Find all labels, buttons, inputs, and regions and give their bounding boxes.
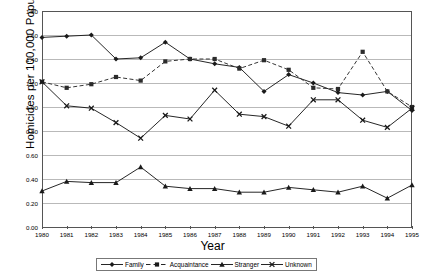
data-point-marker [385, 89, 389, 93]
data-point-marker [39, 188, 44, 193]
legend-label: Stranger [234, 261, 261, 268]
x-tick-label: 1987 [208, 231, 222, 238]
data-point-marker [409, 182, 414, 187]
x-tick-label: 1992 [331, 231, 345, 238]
data-point-marker [212, 61, 217, 66]
x-tick-mark [215, 226, 216, 229]
data-point-marker [138, 164, 143, 169]
data-point-marker [188, 57, 192, 61]
x-axis-title: Year [0, 239, 425, 253]
x-tick-label: 1985 [158, 231, 172, 238]
legend-symbol-triangle [211, 260, 233, 269]
x-tick-mark [289, 226, 290, 229]
data-point-marker [287, 68, 291, 72]
y-tick-label: 0.60 [12, 152, 38, 159]
data-point-marker [360, 93, 365, 98]
x-tick-label: 1986 [183, 231, 197, 238]
series-stranger [39, 164, 414, 200]
y-tick-label: 1.40 [12, 56, 38, 63]
data-point-marker [311, 81, 316, 86]
data-point-marker [385, 196, 390, 201]
data-point-marker [89, 82, 93, 86]
x-tick-mark [338, 226, 339, 229]
legend-item-family[interactable]: Family [100, 260, 145, 269]
x-tick-mark [141, 226, 142, 229]
x-tick-label: 1982 [84, 231, 98, 238]
y-tick-label: 0.40 [12, 176, 38, 183]
x-tick-mark [313, 226, 314, 229]
data-point-marker [311, 86, 315, 90]
series-lines [42, 11, 412, 227]
data-point-marker [213, 57, 217, 61]
data-point-marker [138, 136, 143, 141]
x-tick-label: 1989 [257, 231, 271, 238]
x-tick-label: 1984 [134, 231, 148, 238]
plot-area [42, 11, 412, 227]
data-point-marker [139, 79, 143, 83]
y-tick-label: 0.20 [12, 200, 38, 207]
data-point-marker [360, 184, 365, 189]
data-point-marker [212, 88, 217, 93]
data-point-marker [237, 67, 241, 71]
x-tick-mark [387, 226, 388, 229]
x-tick-label: 1993 [356, 231, 370, 238]
chart-legend: FamilyAcquaintanceStrangerUnknown [96, 258, 317, 271]
y-tick-label: 1.20 [12, 80, 38, 87]
legend-symbol-x [261, 260, 283, 269]
x-tick-label: 1991 [306, 231, 320, 238]
x-tick-label: 1981 [60, 231, 74, 238]
legend-item-acquaintance[interactable]: Acquaintance [145, 260, 210, 269]
data-point-marker [336, 87, 340, 91]
data-point-marker [64, 34, 69, 39]
data-point-marker [361, 50, 365, 54]
series-line [42, 167, 412, 198]
legend-item-stranger[interactable]: Stranger [210, 260, 261, 269]
data-point-marker [114, 120, 119, 125]
x-tick-mark [363, 226, 364, 229]
series-unknown [40, 79, 415, 140]
data-point-marker [262, 58, 266, 62]
x-tick-mark [67, 226, 68, 229]
x-tick-mark [412, 226, 413, 229]
series-family [40, 33, 415, 114]
x-tick-mark [165, 226, 166, 229]
x-tick-mark [91, 226, 92, 229]
y-axis-tick-labels: 0.000.200.400.600.801.001.201.401.601.80 [8, 11, 38, 227]
legend-item-unknown[interactable]: Unknown [260, 260, 313, 269]
x-tick-label: 1995 [405, 231, 419, 238]
y-tick-label: 1.60 [12, 32, 38, 39]
data-point-marker [286, 124, 291, 129]
legend-label: Acquaintance [169, 261, 210, 268]
x-tick-label: 1994 [380, 231, 394, 238]
x-tick-mark [42, 226, 43, 229]
series-line [42, 35, 412, 111]
x-tick-mark [264, 226, 265, 229]
data-point-marker [65, 86, 69, 90]
x-tick-label: 1980 [35, 231, 49, 238]
x-tick-mark [239, 226, 240, 229]
series-line [42, 52, 412, 107]
legend-label: Family [124, 261, 145, 268]
y-tick-label: 1.80 [12, 8, 38, 15]
y-tick-label: 1.00 [12, 104, 38, 111]
x-tick-label: 1983 [109, 231, 123, 238]
x-tick-mark [116, 226, 117, 229]
data-point-marker [138, 55, 143, 60]
data-point-marker [155, 262, 159, 266]
x-tick-mark [190, 226, 191, 229]
data-point-marker [114, 75, 118, 79]
series-line [42, 82, 412, 138]
legend-label: Unknown [284, 261, 313, 268]
x-tick-label: 1990 [282, 231, 296, 238]
legend-symbol-diamond [101, 260, 123, 269]
series-acquaintance [40, 50, 414, 109]
x-tick-label: 1988 [232, 231, 246, 238]
data-point-marker [40, 35, 45, 40]
data-point-marker [163, 59, 167, 63]
y-tick-label: 0.00 [12, 224, 38, 231]
data-point-marker [110, 262, 115, 267]
legend-symbol-square [146, 260, 168, 269]
y-tick-label: 0.80 [12, 128, 38, 135]
chart-figure: Homicides per 100,000 Population 0.000.2… [0, 0, 425, 280]
